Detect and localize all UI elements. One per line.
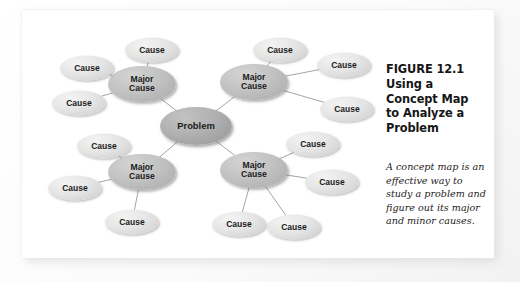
node-label: Cause — [91, 142, 117, 151]
node-cause-tr-2[interactable]: Cause — [317, 53, 371, 78]
caption-column: FIGURE 12.1Using aConcept Mapto Analyze … — [386, 10, 494, 258]
node-label: Major Cause — [241, 161, 267, 179]
node-label: Cause — [66, 99, 92, 108]
node-problem[interactable]: Problem — [160, 107, 232, 145]
figure-title-line-3: to Analyze a — [386, 106, 490, 121]
node-label: Cause — [267, 46, 293, 55]
node-label: Cause — [139, 46, 165, 55]
node-cause-br-1[interactable]: Cause — [286, 132, 340, 157]
figure-caption: A concept map is an effective way to stu… — [386, 160, 486, 228]
figure-card: ProblemMajor CauseMajor CauseMajor Cause… — [22, 10, 494, 258]
node-label: Cause — [226, 220, 252, 229]
node-label: Cause — [62, 184, 88, 193]
figure-title-line-4: Problem — [386, 121, 490, 136]
node-cause-tr-3[interactable]: Cause — [320, 97, 374, 122]
node-label: Cause — [74, 64, 100, 73]
node-label: Cause — [119, 218, 145, 227]
node-major-br[interactable]: Major Cause — [220, 152, 288, 188]
node-cause-bl-3[interactable]: Cause — [105, 210, 159, 235]
node-major-bl[interactable]: Major Cause — [108, 154, 176, 190]
node-cause-tl-3[interactable]: Cause — [52, 91, 106, 116]
node-label: Cause — [331, 61, 357, 70]
node-label: Cause — [300, 140, 326, 149]
node-major-tl[interactable]: Major Cause — [108, 66, 176, 102]
node-cause-br-3[interactable]: Cause — [212, 212, 266, 237]
node-label: Cause — [334, 105, 360, 114]
figure-title: FIGURE 12.1Using aConcept Mapto Analyze … — [386, 62, 490, 136]
node-label: Major Cause — [241, 73, 267, 91]
node-cause-bl-2[interactable]: Cause — [48, 176, 102, 201]
node-label: Major Cause — [129, 75, 155, 93]
node-cause-br-2[interactable]: Cause — [305, 170, 359, 195]
concept-map-diagram: ProblemMajor CauseMajor CauseMajor Cause… — [22, 10, 370, 258]
node-cause-tr-1[interactable]: Cause — [253, 38, 307, 63]
node-major-tr[interactable]: Major Cause — [220, 64, 288, 100]
node-cause-br-4[interactable]: Cause — [267, 215, 321, 240]
node-cause-tl-1[interactable]: Cause — [125, 38, 179, 63]
node-label: Cause — [281, 223, 307, 232]
figure-title-line-2: Concept Map — [386, 92, 490, 107]
node-label: Cause — [319, 178, 345, 187]
node-label: Major Cause — [129, 163, 155, 181]
page-background: ProblemMajor CauseMajor CauseMajor Cause… — [0, 0, 520, 282]
figure-title-line-0: FIGURE 12.1 — [386, 62, 490, 77]
node-cause-tl-2[interactable]: Cause — [60, 56, 114, 81]
node-label: Problem — [177, 121, 215, 131]
node-cause-bl-1[interactable]: Cause — [77, 134, 131, 159]
figure-title-line-1: Using a — [386, 77, 490, 92]
